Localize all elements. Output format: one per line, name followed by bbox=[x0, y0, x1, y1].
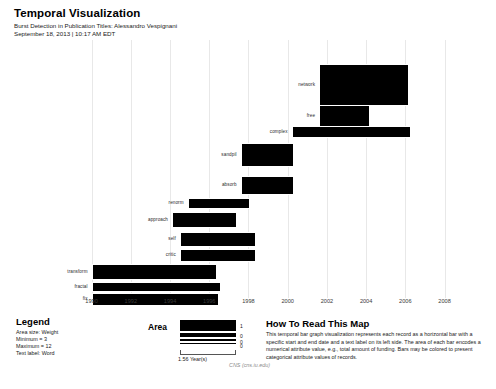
chart-bar[interactable] bbox=[188, 198, 251, 209]
bar-label: free bbox=[253, 113, 315, 118]
chart-bar[interactable] bbox=[292, 126, 412, 138]
bar-label: approach bbox=[106, 217, 168, 222]
x-tick-label: 2008 bbox=[425, 298, 465, 304]
chart-subtitle: Burst Detection in Publication Titles: A… bbox=[14, 22, 414, 30]
area-scale-bar bbox=[180, 350, 236, 355]
legend-line: Minimum = 3 bbox=[16, 336, 136, 343]
area-swatch-row: 1 bbox=[180, 320, 236, 331]
x-tick-label: 2004 bbox=[346, 298, 386, 304]
gridline bbox=[92, 40, 93, 298]
chart-bar[interactable] bbox=[172, 212, 237, 228]
legend-lines: Area size: WeightMinimum = 3Maximum = 12… bbox=[16, 329, 136, 357]
legend-title: Legend bbox=[16, 316, 136, 327]
chart-bar[interactable] bbox=[92, 264, 218, 280]
area-swatch-list: 1000 bbox=[180, 320, 236, 346]
chart-bar[interactable] bbox=[319, 105, 370, 127]
chart-bar[interactable] bbox=[92, 282, 221, 292]
page-title: Temporal Visualization bbox=[14, 7, 414, 20]
bar-label: complex bbox=[226, 129, 288, 134]
bar-label: self bbox=[114, 236, 176, 241]
legend-line: Area size: Weight bbox=[16, 329, 136, 336]
chart-bar[interactable] bbox=[180, 232, 257, 247]
how-to-read-body: This temporal bar graph visualization re… bbox=[266, 331, 486, 361]
how-to-read-title: How To Read This Map bbox=[266, 318, 486, 329]
temporal-bar-chart: networkfreecomplexsandpilabsorbrenormapp… bbox=[0, 40, 496, 305]
area-swatch-value: 1 bbox=[240, 323, 243, 329]
area-swatch bbox=[180, 339, 236, 341]
chart-bar[interactable] bbox=[241, 176, 294, 195]
gridline bbox=[288, 40, 289, 298]
area-swatch-row: 0 bbox=[180, 339, 236, 341]
x-tick-label: 1992 bbox=[111, 298, 151, 304]
gridline bbox=[445, 40, 446, 298]
legend-line: Text label: Word bbox=[16, 350, 136, 357]
area-swatch-value: 0 bbox=[240, 343, 243, 349]
bar-label: transform bbox=[26, 269, 88, 274]
gridline bbox=[170, 40, 171, 298]
bar-label: absorb bbox=[175, 182, 237, 187]
x-tick-label: 1996 bbox=[189, 298, 229, 304]
gridline bbox=[131, 40, 132, 298]
area-swatch-row: 0 bbox=[180, 333, 236, 337]
x-axis: 1990199219941996199820002002200420062008 bbox=[0, 298, 496, 312]
bar-label: sandpil bbox=[175, 152, 237, 157]
x-tick-label: 1998 bbox=[228, 298, 268, 304]
area-swatch bbox=[180, 333, 236, 337]
area-scale-label: 1.56 Year(s) bbox=[178, 356, 207, 363]
area-swatch-row: 0 bbox=[180, 343, 236, 344]
x-tick-label: 2000 bbox=[268, 298, 308, 304]
x-tick-label: 1994 bbox=[150, 298, 190, 304]
x-tick-label: 1990 bbox=[72, 298, 112, 304]
chart-bar[interactable] bbox=[180, 249, 257, 262]
bar-label: network bbox=[253, 82, 315, 87]
area-swatch bbox=[180, 320, 236, 331]
area-legend-title: Area bbox=[148, 322, 167, 332]
chart-header: Temporal Visualization Burst Detection i… bbox=[14, 7, 414, 38]
x-tick-label: 2002 bbox=[307, 298, 347, 304]
attribution-text: CNS (cns.iu.edu) bbox=[229, 362, 270, 368]
area-swatch bbox=[180, 343, 236, 344]
x-tick-label: 2006 bbox=[385, 298, 425, 304]
how-to-read-panel: How To Read This Map This temporal bar g… bbox=[266, 318, 486, 361]
chart-bar[interactable] bbox=[319, 64, 409, 106]
legend-panel: Legend Area size: WeightMinimum = 3Maxim… bbox=[16, 316, 136, 357]
chart-bar[interactable] bbox=[241, 143, 294, 167]
bar-label: renorm bbox=[122, 200, 184, 205]
legend-line: Maximum = 12 bbox=[16, 343, 136, 350]
bar-label: critic bbox=[114, 252, 176, 257]
bar-label: fractal bbox=[26, 284, 88, 289]
chart-timestamp: September 18, 2013 | 10:17 AM EDT bbox=[14, 30, 414, 38]
